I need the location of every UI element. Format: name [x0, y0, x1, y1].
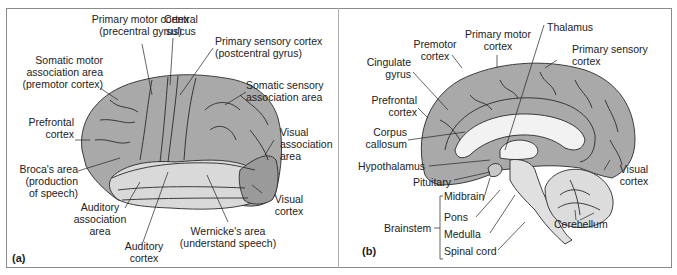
label-visual-cortex-b: Visual cortex	[614, 163, 654, 187]
label-prefrontal-cortex-b: Prefrontal cortex	[355, 94, 417, 118]
label-visual-cortex-a: Visual cortex	[268, 193, 310, 217]
label-premotor-cortex: Premotor cortex	[407, 38, 463, 62]
label-medulla: Medulla	[444, 228, 481, 240]
panel-tag-a: (a)	[12, 252, 25, 264]
label-pons: Pons	[444, 211, 468, 223]
label-visual-association-area: Visual association area	[280, 126, 333, 162]
label-midbrain: Midbrain	[444, 190, 484, 202]
panel-tag-b: (b)	[362, 245, 376, 257]
label-thalamus: Thalamus	[547, 21, 593, 33]
label-hypothalamus: Hypothalamus	[358, 160, 425, 172]
label-cerebellum: Cerebellum	[554, 218, 608, 230]
label-corpus-callosum: Corpus callosum	[355, 126, 407, 150]
label-brainstem: Brainstem	[384, 222, 431, 234]
label-auditory-cortex: Auditory cortex	[118, 240, 170, 264]
label-wernickes-area: Wernicke's area (understand speech)	[178, 225, 278, 249]
label-spinal-cord: Spinal cord	[444, 245, 497, 257]
label-brocas-area: Broca's area (production of speech)	[12, 163, 78, 199]
label-somatic-sensory-association: Somatic sensory association area	[246, 79, 324, 103]
label-pituitary: Pituitary	[413, 176, 451, 188]
label-primary-motor-cortex-b: Primary motor cortex	[462, 28, 534, 52]
label-central-sulcus: Central sulcus	[157, 13, 205, 37]
label-cingulate-gyrus: Cingulate gyrus	[355, 56, 411, 80]
label-prefrontal-cortex-a: Prefrontal cortex	[14, 116, 74, 140]
label-somatic-motor-association: Somatic motor association area (premotor…	[10, 54, 103, 90]
label-primary-sensory-cortex-a: Primary sensory cortex (postcentral gyru…	[215, 35, 322, 59]
label-auditory-association-area: Auditory association area	[68, 201, 132, 237]
label-primary-sensory-cortex-b: Primary sensory cortex	[572, 43, 648, 67]
